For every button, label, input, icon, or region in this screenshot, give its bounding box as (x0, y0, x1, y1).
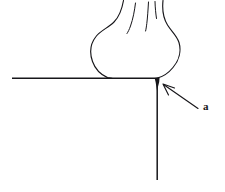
bulb-outline-left (91, 1, 124, 79)
junction-mark (155, 77, 160, 90)
bulb-outline-right (157, 1, 180, 79)
callout-arrow-shaft (164, 85, 199, 109)
stalk-fold-inner-right-tick (155, 2, 157, 19)
figure-root: a (0, 0, 225, 192)
line-drawing-canvas (0, 0, 225, 192)
stalk-fold-inner-right (146, 2, 149, 31)
callout-label-a: a (203, 101, 209, 112)
stalk-fold-inner-left (127, 3, 136, 34)
